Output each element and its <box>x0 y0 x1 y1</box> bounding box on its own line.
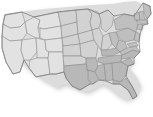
state-minnesota <box>76 9 92 34</box>
state-arizona <box>29 58 50 77</box>
state-california <box>2 36 24 74</box>
state-new-mexico <box>48 52 64 74</box>
region-west <box>2 12 64 77</box>
state-colorado <box>45 38 63 52</box>
us-map-svg <box>0 0 153 117</box>
state-kansas <box>63 44 81 56</box>
us-map-graphic: United States map Contiguous United Stat… <box>0 0 153 117</box>
star-base-band <box>0 110 153 117</box>
white-star-overlay <box>0 97 153 117</box>
